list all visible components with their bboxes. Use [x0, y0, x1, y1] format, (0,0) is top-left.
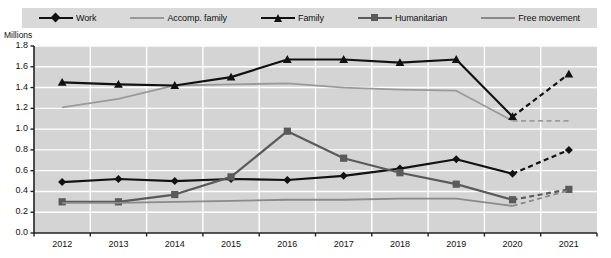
- triangle-marker-icon: [261, 13, 295, 23]
- point-marker-square: [59, 198, 66, 205]
- x-tick-2014: 2014: [153, 239, 197, 249]
- y-tick-0.2: 0.2: [2, 206, 28, 216]
- x-tick-2016: 2016: [265, 239, 309, 249]
- point-marker-square: [340, 155, 347, 162]
- y-tick-1.2: 1.2: [2, 102, 28, 112]
- diamond-marker-icon: [39, 13, 73, 23]
- y-tick-0.0: 0.0: [2, 227, 28, 237]
- y-axis-units-label: Millions: [4, 30, 32, 40]
- x-tick-2018: 2018: [378, 239, 422, 249]
- y-tick-0.4: 0.4: [2, 185, 28, 195]
- point-marker-diamond: [340, 172, 348, 180]
- legend-item-free-movement: Free movement: [481, 13, 580, 23]
- x-tick-2013: 2013: [96, 239, 140, 249]
- point-marker-diamond: [283, 176, 291, 184]
- point-marker-square: [171, 191, 178, 198]
- x-tick-2019: 2019: [434, 239, 478, 249]
- legend-label-humanitarian: Humanitarian: [395, 13, 447, 23]
- x-tick-2020: 2020: [491, 239, 535, 249]
- legend-item-accomp-family: Accomp. family: [130, 13, 227, 23]
- point-marker-diamond: [114, 175, 122, 183]
- line-solid: [62, 83, 512, 120]
- point-marker-square: [115, 198, 122, 205]
- legend-label-accomp-family: Accomp. family: [167, 13, 227, 23]
- x-tick-2012: 2012: [40, 239, 84, 249]
- chart-svg: [34, 46, 597, 233]
- point-marker-square: [284, 128, 291, 135]
- point-marker-diamond: [58, 178, 66, 186]
- y-tick-1.8: 1.8: [2, 40, 28, 50]
- legend-item-family: Family: [261, 13, 324, 23]
- plot-area: [34, 46, 597, 233]
- chart-legend: Work Accomp. family Family Humanitarian …: [22, 8, 597, 28]
- plain-line-icon: [481, 13, 515, 23]
- point-marker-diamond: [171, 177, 179, 185]
- x-tick-2017: 2017: [322, 239, 366, 249]
- square-marker-icon: [358, 13, 392, 23]
- y-tick-1.6: 1.6: [2, 61, 28, 71]
- point-marker-diamond: [565, 146, 573, 154]
- point-marker-square: [227, 173, 234, 180]
- legend-label-free-movement: Free movement: [518, 13, 580, 23]
- legend-label-family: Family: [298, 13, 324, 23]
- y-tick-0.8: 0.8: [2, 144, 28, 154]
- point-marker-square: [453, 181, 460, 188]
- point-marker-diamond: [452, 155, 460, 163]
- y-tick-1.4: 1.4: [2, 82, 28, 92]
- y-tick-0.6: 0.6: [2, 165, 28, 175]
- point-marker-square: [509, 196, 516, 203]
- point-marker-triangle: [564, 70, 573, 78]
- plain-line-icon: [130, 13, 164, 23]
- x-tick-2021: 2021: [547, 239, 591, 249]
- chart-page: Work Accomp. family Family Humanitarian …: [0, 0, 611, 258]
- x-tick-2015: 2015: [209, 239, 253, 249]
- legend-item-work: Work: [39, 13, 96, 23]
- legend-label-work: Work: [76, 13, 96, 23]
- y-tick-1.0: 1.0: [2, 123, 28, 133]
- point-marker-square: [396, 169, 403, 176]
- legend-item-humanitarian: Humanitarian: [358, 13, 447, 23]
